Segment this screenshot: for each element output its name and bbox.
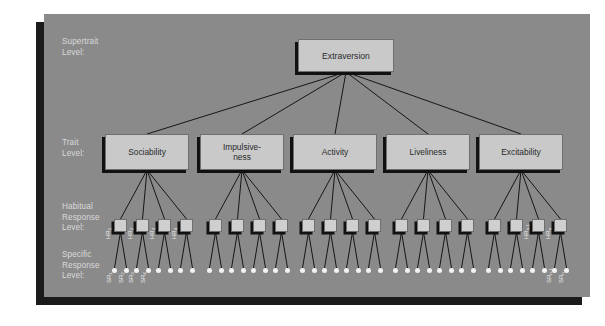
habitual-response-box-5[interactable] bbox=[209, 219, 222, 232]
specific-response-dot-10[interactable] bbox=[219, 268, 224, 273]
specific-response-dot-20[interactable] bbox=[334, 268, 339, 273]
hr-to-sr-2 bbox=[137, 232, 143, 268]
habitual-response-box-19[interactable] bbox=[532, 219, 545, 232]
specific-response-dot-32[interactable] bbox=[471, 268, 476, 273]
supertrait-to-trait-1 bbox=[242, 72, 346, 134]
hr-to-sr-38 bbox=[555, 232, 561, 268]
specific-response-dot-11[interactable] bbox=[229, 268, 234, 273]
specific-response-dot-24[interactable] bbox=[378, 268, 383, 273]
hr-label-20: HRn bbox=[545, 228, 551, 239]
specific-response-dot-25[interactable] bbox=[393, 268, 398, 273]
hr-to-sr-39 bbox=[561, 232, 567, 268]
specific-response-dot-22[interactable] bbox=[356, 268, 361, 273]
specific-response-dot-31[interactable] bbox=[459, 268, 464, 273]
habitual-response-box-10[interactable] bbox=[324, 219, 337, 232]
specific-response-dot-36[interactable] bbox=[520, 268, 525, 273]
supertrait-to-trait-4 bbox=[346, 72, 521, 134]
hr-to-sr-9 bbox=[216, 232, 222, 268]
hr-to-sr-20 bbox=[347, 232, 353, 268]
habitual-response-box-17[interactable] bbox=[488, 219, 501, 232]
habitual-response-box-8[interactable] bbox=[275, 219, 288, 232]
specific-response-dot-35[interactable] bbox=[508, 268, 513, 273]
habitual-response-box-14[interactable] bbox=[417, 219, 430, 232]
specific-response-dot-33[interactable] bbox=[486, 268, 491, 273]
hr-to-sr-22 bbox=[369, 232, 375, 268]
habitual-response-box-3[interactable] bbox=[158, 219, 171, 232]
hr-to-sr-15 bbox=[282, 232, 288, 268]
trait-label-liveliness: Liveliness bbox=[410, 147, 447, 157]
specific-response-dot-13[interactable] bbox=[251, 268, 256, 273]
sr-label-39: SRn-1 bbox=[546, 268, 552, 283]
row-label-supertrait: Supertrait Level: bbox=[62, 37, 99, 58]
hr-to-sr-8 bbox=[210, 232, 216, 268]
hr-to-sr-5 bbox=[165, 232, 171, 268]
habitual-response-box-2[interactable] bbox=[136, 219, 149, 232]
specific-response-dot-30[interactable] bbox=[449, 268, 454, 273]
hr-to-sr-16 bbox=[303, 232, 309, 268]
habitual-response-box-18[interactable] bbox=[510, 219, 523, 232]
specific-response-dot-12[interactable] bbox=[241, 268, 246, 273]
trait-to-hr-6 bbox=[242, 170, 260, 219]
trait-box-excitability[interactable]: Excitability bbox=[479, 134, 563, 170]
specific-response-dot-27[interactable] bbox=[415, 268, 420, 273]
habitual-response-box-9[interactable] bbox=[302, 219, 315, 232]
hr-to-sr-0 bbox=[115, 232, 121, 268]
hr-to-sr-26 bbox=[418, 232, 424, 268]
hr-to-sr-29 bbox=[446, 232, 452, 268]
habitual-response-box-11[interactable] bbox=[346, 219, 359, 232]
trait-label-sociability: Sociability bbox=[128, 147, 166, 157]
specific-response-dot-34[interactable] bbox=[498, 268, 503, 273]
specific-response-dot-7[interactable] bbox=[178, 268, 183, 273]
trait-box-sociability[interactable]: Sociability bbox=[105, 134, 189, 170]
trait-box-impulsiveness[interactable]: Impulsive- ness bbox=[200, 134, 284, 170]
habitual-response-box-20[interactable] bbox=[554, 219, 567, 232]
specific-response-dot-6[interactable] bbox=[168, 268, 173, 273]
trait-box-activity[interactable]: Activity bbox=[293, 134, 377, 170]
habitual-response-box-12[interactable] bbox=[368, 219, 381, 232]
specific-response-dot-8[interactable] bbox=[190, 268, 195, 273]
specific-response-dot-5[interactable] bbox=[156, 268, 161, 273]
specific-response-dot-28[interactable] bbox=[427, 268, 432, 273]
habitual-response-box-1[interactable] bbox=[114, 219, 127, 232]
hr-to-sr-7 bbox=[187, 232, 193, 268]
trait-to-hr-15 bbox=[428, 170, 468, 219]
trait-box-liveliness[interactable]: Liveliness bbox=[386, 134, 470, 170]
specific-response-dot-18[interactable] bbox=[312, 268, 317, 273]
specific-response-dot-21[interactable] bbox=[344, 268, 349, 273]
specific-response-dot-23[interactable] bbox=[366, 268, 371, 273]
habitual-response-box-6[interactable] bbox=[231, 219, 244, 232]
trait-to-hr-14 bbox=[428, 170, 446, 219]
specific-response-dot-9[interactable] bbox=[207, 268, 212, 273]
specific-response-dot-37[interactable] bbox=[530, 268, 535, 273]
hr-label-19: HRn-1 bbox=[523, 224, 529, 239]
specific-response-dot-16[interactable] bbox=[285, 268, 290, 273]
hr-to-sr-27 bbox=[424, 232, 430, 268]
hr-to-sr-10 bbox=[232, 232, 238, 268]
habitual-response-box-16[interactable] bbox=[461, 219, 474, 232]
hr-to-sr-14 bbox=[276, 232, 282, 268]
habitual-response-box-4[interactable] bbox=[180, 219, 193, 232]
supertrait-box-extraversion[interactable]: Extraversion bbox=[298, 39, 394, 72]
sr-label-3: SR3 bbox=[128, 272, 134, 283]
specific-response-dot-19[interactable] bbox=[322, 268, 327, 273]
habitual-response-box-13[interactable] bbox=[395, 219, 408, 232]
specific-response-dot-15[interactable] bbox=[273, 268, 278, 273]
hr-to-sr-34 bbox=[511, 232, 517, 268]
hr-to-sr-30 bbox=[462, 232, 468, 268]
specific-response-dot-17[interactable] bbox=[300, 268, 305, 273]
hr-to-sr-18 bbox=[325, 232, 331, 268]
supertrait-to-trait-2 bbox=[335, 72, 346, 134]
row-label-habitual: Habitual Response Level: bbox=[62, 202, 100, 234]
hr-label-3: HR3 bbox=[149, 228, 155, 239]
hr-to-sr-24 bbox=[396, 232, 402, 268]
hr-to-sr-37 bbox=[539, 232, 545, 268]
hr-to-sr-21 bbox=[353, 232, 359, 268]
specific-response-dot-26[interactable] bbox=[405, 268, 410, 273]
hr-to-sr-1 bbox=[121, 232, 127, 268]
specific-response-dot-14[interactable] bbox=[263, 268, 268, 273]
hr-to-sr-11 bbox=[238, 232, 244, 268]
trait-to-hr-18 bbox=[521, 170, 539, 219]
specific-response-dot-29[interactable] bbox=[437, 268, 442, 273]
habitual-response-box-15[interactable] bbox=[439, 219, 452, 232]
habitual-response-box-7[interactable] bbox=[253, 219, 266, 232]
